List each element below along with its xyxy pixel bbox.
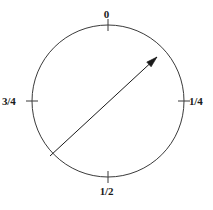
- label-three-quarters: 3/4: [2, 96, 15, 107]
- label-one-half: 1/2: [0, 186, 213, 197]
- circle-fraction-figure: 0 1/4 1/2 3/4: [0, 0, 213, 210]
- unit-circle: [32, 25, 184, 177]
- arrow-shaft: [50, 57, 157, 156]
- label-zero: 0: [0, 9, 213, 20]
- label-one-quarter: 1/4: [189, 96, 202, 107]
- diagram-canvas: [0, 0, 213, 210]
